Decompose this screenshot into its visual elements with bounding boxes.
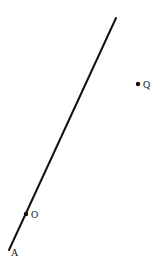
label-q: Q [143,79,151,90]
geometry-diagram: A O Q [0,0,162,267]
point-o-dot [24,212,28,216]
label-a: A [11,247,19,258]
point-q-dot [136,82,140,86]
label-o: O [31,209,38,220]
